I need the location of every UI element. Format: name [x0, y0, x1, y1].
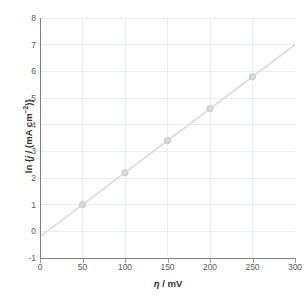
y-tick-label: 8 [4, 14, 36, 23]
x-tick-label: 300 [275, 262, 306, 272]
x-tick-mark [83, 259, 84, 263]
y-axis-line [40, 18, 41, 259]
x-tick-label: 50 [63, 262, 103, 272]
y-axis-title: ln {j / (mA cm−2)} [22, 46, 34, 226]
tafel-plot-chart: -1012345678 η / mV ln {j / (mA cm−2)} 05… [0, 0, 306, 298]
x-tick-mark [253, 259, 254, 263]
x-tick-label: 250 [233, 262, 273, 272]
data-series [40, 18, 295, 258]
x-tick-mark [125, 259, 126, 263]
x-axis-title: η / mV [40, 278, 296, 289]
x-tick-label: 100 [105, 262, 145, 272]
x-tick-label: 150 [148, 262, 188, 272]
x-tick-label: 200 [190, 262, 230, 272]
x-tick-mark [295, 259, 296, 263]
plot-area [40, 18, 295, 258]
y-tick-label: 0 [4, 227, 36, 236]
x-tick-mark [40, 259, 41, 263]
x-tick-mark [210, 259, 211, 263]
x-tick-mark [168, 259, 169, 263]
x-tick-label: 0 [20, 262, 60, 272]
